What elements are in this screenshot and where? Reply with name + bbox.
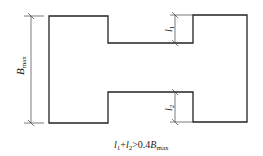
bmax-dimension <box>24 13 44 126</box>
formula: l1+l2>0.4Bmax <box>114 139 169 152</box>
l2-label: l2 <box>163 104 176 111</box>
building-outline <box>49 15 247 123</box>
bmax-label: Bmax <box>14 56 28 75</box>
diagram-canvas: Bmax l1 l2 l1+l2>0.4Bmax <box>0 0 263 156</box>
l1-label: l1 <box>163 25 176 32</box>
